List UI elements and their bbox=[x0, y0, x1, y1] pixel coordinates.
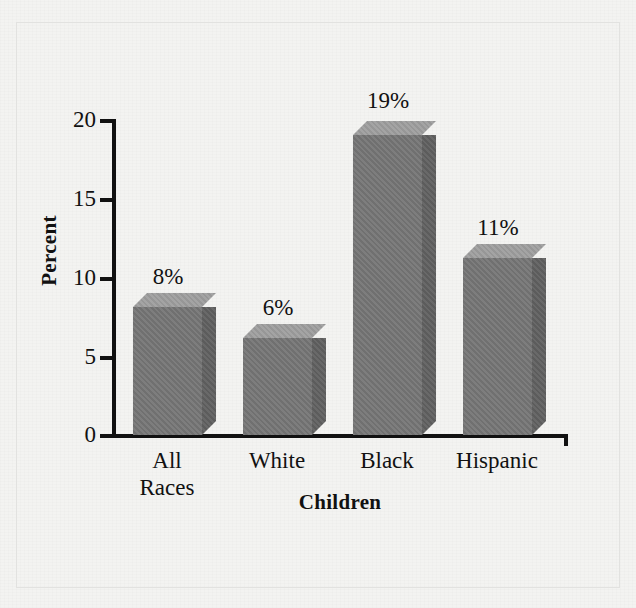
y-tick-label: 0 bbox=[50, 423, 96, 446]
bar-front-face bbox=[463, 258, 532, 435]
bar-side-face bbox=[312, 338, 326, 435]
y-tick-mark bbox=[100, 277, 113, 281]
bar-front-face bbox=[243, 338, 312, 435]
x-category-label: Hispanic bbox=[447, 447, 547, 474]
x-category-label: Black bbox=[337, 447, 437, 474]
bar-front-face bbox=[353, 135, 422, 435]
bar-top-face bbox=[463, 244, 546, 258]
y-tick-label: 20 bbox=[50, 108, 96, 131]
bar-front-face bbox=[133, 307, 202, 435]
y-tick-mark bbox=[100, 434, 113, 438]
bar-side-face bbox=[532, 258, 546, 435]
y-tick-mark bbox=[100, 356, 113, 360]
bar-top-face bbox=[133, 293, 216, 307]
y-tick-mark bbox=[100, 198, 113, 202]
bar-top-face bbox=[353, 121, 436, 135]
x-axis-end-tick bbox=[564, 434, 568, 446]
bar-value-label: 19% bbox=[338, 89, 438, 112]
bar-top-face bbox=[243, 324, 326, 338]
x-category-label: White bbox=[227, 447, 327, 474]
bar-side-face bbox=[422, 135, 436, 435]
bar-side-face bbox=[202, 307, 216, 435]
bar-chart: 20 15 10 5 0 Percent Children 8% All Rac… bbox=[0, 0, 636, 608]
x-category-label: All Races bbox=[117, 447, 217, 501]
y-axis-title: Percent bbox=[37, 171, 62, 331]
y-tick-mark bbox=[100, 119, 113, 123]
y-tick-label: 5 bbox=[50, 345, 96, 368]
bar-value-label: 8% bbox=[118, 265, 218, 288]
bar-value-label: 11% bbox=[448, 216, 548, 239]
bar-value-label: 6% bbox=[228, 296, 328, 319]
